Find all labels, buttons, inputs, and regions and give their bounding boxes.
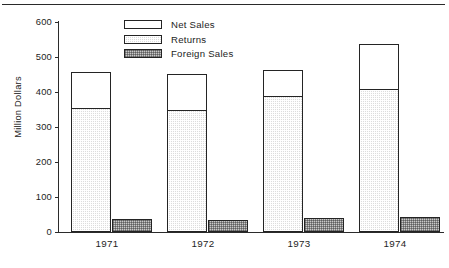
bar-segment-returns-1973 bbox=[264, 96, 302, 231]
y-tick-label: 500 bbox=[36, 51, 52, 62]
bar-segment-divider-1971 bbox=[71, 108, 111, 109]
bar-foreign-sales-1973 bbox=[304, 218, 344, 232]
bar-segment-net-sales-1973 bbox=[264, 71, 302, 97]
bar-segment-net-sales-1972 bbox=[168, 75, 206, 110]
legend-swatch-foreign-sales bbox=[124, 49, 162, 58]
bar-segment-returns-1971 bbox=[72, 108, 110, 231]
x-tick-label-1974: 1974 bbox=[347, 238, 443, 249]
bar-chart-figure: Million Dollars 0100200300400500600 1971… bbox=[0, 0, 449, 268]
bar-foreign-sales-1974 bbox=[400, 217, 440, 232]
y-tick-label: 100 bbox=[36, 191, 52, 202]
legend-swatch-net-sales bbox=[124, 20, 162, 29]
bar-segment-net-sales-1971 bbox=[72, 73, 110, 108]
bar-foreign-sales-1972 bbox=[208, 220, 248, 232]
bar-segment-divider-1973 bbox=[263, 96, 303, 97]
legend-item-net-sales: Net Sales bbox=[124, 18, 233, 31]
bar-segment-returns-1974 bbox=[360, 89, 398, 231]
x-tick-label-1971: 1971 bbox=[59, 238, 155, 249]
bar-segment-net-sales-1974 bbox=[360, 45, 398, 89]
bar-foreign-sales-1971 bbox=[112, 219, 152, 232]
stacked-bar-1973 bbox=[263, 70, 303, 232]
figure-caption bbox=[4, 261, 444, 268]
legend-label-foreign-sales: Foreign Sales bbox=[171, 48, 233, 59]
x-axis-line bbox=[58, 232, 444, 233]
stacked-bar-1974 bbox=[359, 44, 399, 232]
legend-item-returns: Returns bbox=[124, 33, 233, 46]
y-tick-label: 200 bbox=[36, 156, 52, 167]
y-tick-label: 600 bbox=[36, 16, 52, 27]
y-tick-label: 400 bbox=[36, 86, 52, 97]
y-tick-label: 0 bbox=[47, 226, 52, 237]
bar-segment-divider-1972 bbox=[167, 110, 207, 111]
legend-swatch-returns bbox=[124, 35, 162, 44]
stacked-bar-1972 bbox=[167, 74, 207, 232]
x-tick-label-1973: 1973 bbox=[251, 238, 347, 249]
bar-segment-returns-1972 bbox=[168, 110, 206, 231]
chart-legend: Net Sales Returns Foreign Sales bbox=[124, 18, 233, 62]
y-axis-title: Million Dollars bbox=[13, 42, 23, 172]
stacked-bar-1971 bbox=[71, 72, 111, 232]
x-tick-label-1972: 1972 bbox=[155, 238, 251, 249]
y-tick-label: 300 bbox=[36, 121, 52, 132]
legend-item-foreign-sales: Foreign Sales bbox=[124, 47, 233, 60]
legend-label-net-sales: Net Sales bbox=[171, 19, 215, 30]
bar-segment-divider-1974 bbox=[359, 89, 399, 90]
top-divider-rule bbox=[2, 4, 445, 5]
legend-label-returns: Returns bbox=[171, 34, 206, 45]
